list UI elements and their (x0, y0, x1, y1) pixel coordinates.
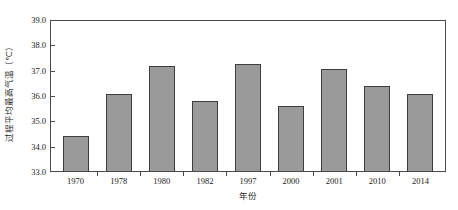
x-axis-tick-mark (313, 172, 314, 176)
y-axis-tick-label: 33.0 (31, 168, 46, 177)
bar-slot (269, 21, 312, 171)
bar-slot (184, 21, 227, 171)
x-axis-tick-mark (226, 172, 227, 176)
plot-area (50, 20, 446, 172)
y-axis-tick-mark (51, 45, 55, 46)
x-axis-tick-label: 1982 (183, 177, 226, 191)
y-axis-title-text: 过程平均最高气温（℃） (5, 43, 14, 143)
bar[interactable] (149, 66, 175, 171)
bar[interactable] (106, 94, 132, 172)
x-axis-tick-label: 2010 (356, 177, 399, 191)
y-axis-tick-mark (51, 121, 55, 122)
x-axis-tick-label: 1980 (140, 177, 183, 191)
y-axis-tick-label: 34.0 (31, 142, 46, 151)
y-axis-tick-mark (51, 96, 55, 97)
bar-slot (227, 21, 270, 171)
y-axis-tick-label: 37.0 (31, 66, 46, 75)
x-axis-tick-mark (183, 172, 184, 176)
x-axis-tick-label: 2000 (270, 177, 313, 191)
x-axis-tick-labels: 197019781980198219972000200120102014 (50, 177, 446, 191)
bar[interactable] (278, 106, 304, 171)
x-axis-tick-mark (356, 172, 357, 176)
x-axis-title: 年份 (50, 192, 446, 201)
y-axis-tick-label: 35.0 (31, 117, 46, 126)
bar-series (51, 21, 445, 171)
bar[interactable] (192, 101, 218, 171)
bar[interactable] (364, 86, 390, 171)
bar-slot (55, 21, 98, 171)
bar[interactable] (63, 136, 89, 171)
bar[interactable] (321, 69, 347, 172)
bar-slot (312, 21, 355, 171)
x-axis-tick-label: 1970 (54, 177, 97, 191)
bar[interactable] (235, 64, 261, 172)
y-axis-tick-label: 38.0 (31, 41, 46, 50)
bar[interactable] (407, 94, 433, 172)
x-axis-tick-label: 2001 (313, 177, 356, 191)
bar-slot (98, 21, 141, 171)
x-axis-tick-label: 1997 (226, 177, 269, 191)
bar-chart-figure: 过程平均最高气温（℃） 33.034.035.036.037.038.039.0… (0, 0, 458, 210)
x-axis-tick-label: 2014 (399, 177, 442, 191)
bar-slot (398, 21, 441, 171)
y-axis-tick-label: 36.0 (31, 92, 46, 101)
x-axis-tick-label: 1978 (97, 177, 140, 191)
y-axis-tick-labels: 33.034.035.036.037.038.039.0 (16, 0, 48, 210)
bar-slot (355, 21, 398, 171)
x-axis-tick-mark (270, 172, 271, 176)
y-axis-tick-mark (51, 71, 55, 72)
y-axis-tick-label: 39.0 (31, 16, 46, 25)
bar-slot (141, 21, 184, 171)
x-axis-tick-mark (399, 172, 400, 176)
y-axis-tick-mark (51, 147, 55, 148)
x-axis-tick-mark (140, 172, 141, 176)
x-axis-tick-mark (97, 172, 98, 176)
